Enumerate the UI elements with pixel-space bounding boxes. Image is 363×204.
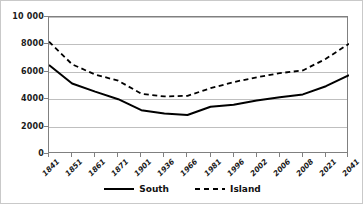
x-axis-tick-label: 1996: [225, 157, 246, 178]
legend-entry-south[interactable]: South: [104, 184, 169, 194]
legend-swatch-solid-icon: [104, 188, 134, 190]
legend-label: Island: [230, 184, 261, 194]
y-axis: 0200040006000800010 000: [1, 16, 44, 153]
x-axis-tick-label: 2002: [248, 157, 269, 178]
x-axis-tick-label: 1966: [179, 157, 200, 178]
x-axis-tick-label: 1851: [63, 157, 84, 178]
legend-swatch-dashed-icon: [195, 188, 225, 190]
y-axis-tick-label: 8000: [21, 39, 44, 48]
legend-label: South: [139, 184, 169, 194]
x-axis-tick-label: 2008: [294, 157, 315, 178]
x-axis-tick-label: 1841: [40, 157, 61, 178]
chart-legend: SouthIsland: [1, 184, 363, 194]
x-axis-tick-label: 2006: [271, 157, 292, 178]
series-line-island: [49, 42, 349, 97]
chart-figure: 0200040006000800010 000 1841185118611871…: [0, 0, 363, 204]
y-axis-tick-label: 2000: [21, 121, 44, 130]
x-axis-tick-label: 2041: [340, 157, 361, 178]
x-axis-tick-label: 1936: [156, 157, 177, 178]
x-axis: 1841185118611871190119361966198119962002…: [48, 157, 348, 185]
plot-area: [48, 16, 348, 153]
y-axis-tick-label: 10 000: [12, 12, 44, 21]
x-axis-tick-label: 1871: [109, 157, 130, 178]
x-axis-tick-label: 1901: [133, 157, 154, 178]
y-axis-tick-label: 6000: [21, 66, 44, 75]
x-axis-tick-label: 1981: [202, 157, 223, 178]
x-axis-tick-label: 2021: [317, 157, 338, 178]
series-lines: [49, 17, 349, 154]
x-axis-tick-label: 1861: [86, 157, 107, 178]
legend-entry-island[interactable]: Island: [195, 184, 261, 194]
series-line-south: [49, 65, 349, 115]
y-axis-tick-label: 4000: [21, 94, 44, 103]
